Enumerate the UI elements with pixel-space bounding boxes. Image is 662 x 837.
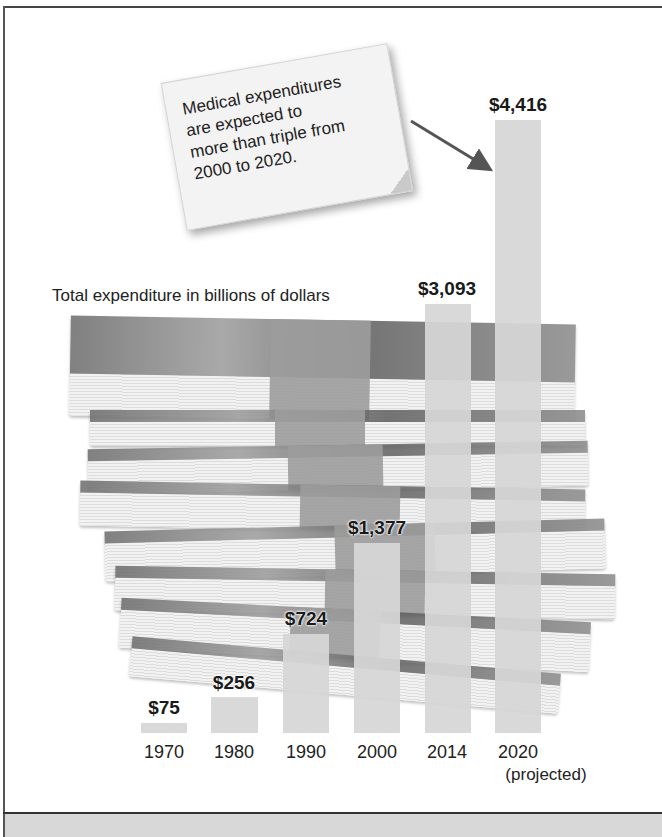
bottom-band bbox=[5, 814, 662, 837]
annotation-arrow-icon bbox=[0, 0, 662, 837]
